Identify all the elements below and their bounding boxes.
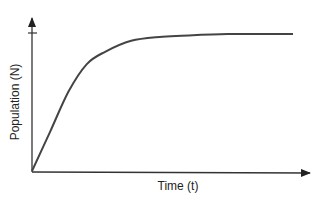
x-axis — [32, 172, 310, 173]
chart: Time (t) Population (N) — [0, 0, 323, 200]
x-axis-label: Time (t) — [158, 179, 199, 193]
y-axis-label: Population (N) — [8, 64, 22, 141]
population-curve — [32, 34, 293, 171]
